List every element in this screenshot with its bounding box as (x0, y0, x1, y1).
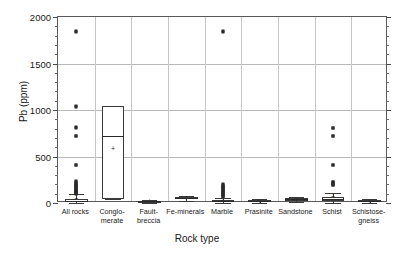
outlier-point (331, 164, 334, 167)
box-plot-fault-breccia: + (131, 17, 168, 201)
y-axis-tick-label: 1000 (30, 105, 51, 116)
y-axis-tick-label: 1500 (30, 58, 51, 69)
mean-marker: + (331, 193, 335, 200)
whisker-cap-lower (69, 203, 84, 204)
mean-marker: + (368, 198, 372, 205)
y-axis-title: Pb (ppm) (18, 57, 29, 147)
box-plot-marble: + (205, 17, 242, 201)
box-plot-prasinite: + (241, 17, 278, 201)
mean-marker: + (148, 198, 152, 205)
whisker-cap-lower (325, 203, 340, 204)
box-plot-conglomerate: + (95, 17, 132, 201)
median-line (102, 136, 125, 137)
x-axis-title: Rock type (0, 233, 394, 244)
outlier-point (75, 192, 78, 195)
outlier-point (75, 164, 78, 167)
mean-marker: + (184, 195, 188, 202)
y-axis-major-tick (53, 203, 58, 204)
y-axis-tick-label: 2000 (30, 12, 51, 23)
box-plot-schistose-gneiss: + (351, 17, 388, 201)
outlier-point (331, 135, 334, 138)
mean-marker: + (258, 197, 262, 204)
outlier-point (331, 127, 334, 130)
chart-root: Pb (ppm) Rock type 0500100015002000+++++… (0, 0, 394, 257)
outlier-point (75, 105, 78, 108)
mean-marker: + (294, 196, 298, 203)
mean-marker: + (111, 144, 115, 151)
outlier-point (221, 30, 224, 33)
outlier-point (221, 195, 224, 198)
outlier-point (75, 126, 78, 129)
box-plot-sandstone: + (278, 17, 315, 201)
plot-area: 0500100015002000+++++++++ (57, 16, 387, 202)
x-axis-tick-label: Schistose- gneiss (344, 207, 393, 225)
outlier-point (75, 135, 78, 138)
y-axis-tick-label: 500 (35, 151, 51, 162)
whisker-cap-lower (105, 199, 120, 200)
mean-marker: + (74, 195, 78, 202)
outlier-point (331, 184, 334, 187)
box-plot-fe-minerals: + (168, 17, 205, 201)
box-plot-schist: + (315, 17, 352, 201)
y-axis-major-tick (386, 203, 391, 204)
box-iqr (102, 106, 125, 199)
box-plot-all-rocks: + (58, 17, 95, 201)
outlier-point (75, 30, 78, 33)
